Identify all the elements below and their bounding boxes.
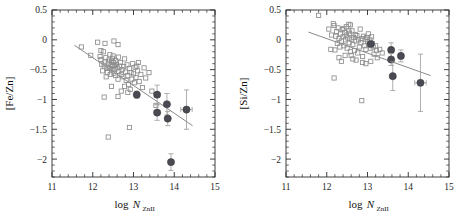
y-tick-label: 0 [42, 35, 47, 45]
data-point-filled-circle [154, 91, 161, 98]
y-tick-label: 0.5 [35, 5, 47, 15]
data-point-open-square [116, 94, 120, 98]
data-point-filled-circle [397, 52, 404, 59]
y-tick-label: −0.5 [30, 65, 47, 75]
data-point-open-square [343, 53, 347, 57]
x-tick-label: 15 [444, 182, 454, 192]
data-point-open-square [100, 69, 104, 73]
data-point-open-square [332, 76, 336, 80]
data-point-open-square [116, 42, 120, 46]
data-point-filled-circle [367, 40, 374, 47]
x-tick-label: 11 [47, 182, 56, 192]
data-point-open-square [317, 13, 321, 17]
data-point-filled-circle [417, 79, 424, 86]
data-point-filled-circle [164, 115, 171, 122]
x-axis-title-log: log [114, 198, 129, 210]
plot-area-si-zn: 11121314150.50−0.5−1−1.5−2logNZnII[Si/Zn… [234, 0, 468, 221]
y-tick-label: 0 [276, 35, 281, 45]
data-point-open-square [122, 84, 126, 88]
data-point-filled-circle [183, 106, 190, 113]
data-point-open-square [104, 75, 108, 79]
data-point-open-square [102, 95, 106, 99]
data-point-open-square [361, 54, 365, 58]
y-axis-title: [Si/Zn] [237, 78, 249, 110]
data-point-open-square [369, 59, 373, 63]
y-tick-label: −2 [37, 155, 47, 165]
data-point-open-square [330, 33, 334, 37]
x-axis-title-subscript: ZnII [143, 205, 156, 213]
x-axis-title-log: log [348, 198, 363, 210]
data-point-open-square [119, 89, 123, 93]
y-tick-label: −0.5 [264, 65, 281, 75]
data-point-open-square [357, 45, 361, 49]
y-tick-label: −1.5 [30, 125, 47, 135]
x-axis-title: logNZnII [114, 198, 155, 213]
data-point-filled-circle [167, 158, 174, 165]
x-tick-label: 14 [404, 182, 414, 192]
x-tick-label: 12 [322, 182, 332, 192]
data-point-open-square [122, 57, 126, 61]
plot-area-fe-zn: 11121314150.50−0.5−1−1.5−2logNZnII[Fe/Zn… [0, 0, 234, 221]
data-point-open-square [360, 99, 364, 103]
data-point-filled-circle [163, 101, 170, 108]
data-point-open-square [140, 85, 144, 89]
x-tick-label: 13 [363, 182, 373, 192]
data-layer [308, 13, 430, 111]
y-tick-label: −1 [37, 95, 47, 105]
x-tick-label: 14 [170, 182, 180, 192]
data-point-open-square [329, 47, 333, 51]
data-point-open-square [137, 79, 141, 83]
data-point-open-square [96, 40, 100, 44]
x-tick-label: 15 [210, 182, 220, 192]
data-point-open-square [112, 39, 116, 43]
data-point-open-square [333, 48, 337, 52]
data-layer [74, 39, 192, 171]
data-point-open-square [127, 125, 131, 129]
data-point-open-square [147, 71, 151, 75]
data-point-open-square [109, 84, 113, 88]
data-point-open-square [358, 27, 362, 31]
x-axis-title-n: N [132, 198, 141, 210]
data-point-open-square [103, 41, 107, 45]
y-tick-label: −2 [271, 155, 281, 165]
data-point-open-square [327, 27, 331, 31]
data-point-filled-circle [389, 73, 396, 80]
data-point-open-square [150, 89, 154, 93]
y-tick-label: −1.5 [264, 125, 281, 135]
x-axis-title-n: N [366, 198, 375, 210]
x-tick-label: 13 [129, 182, 139, 192]
panel-fe-zn: 11121314150.50−0.5−1−1.5−2logNZnII[Fe/Zn… [0, 0, 234, 221]
x-tick-label: 11 [281, 182, 290, 192]
data-point-filled-circle [154, 109, 161, 116]
x-tick-label: 12 [88, 182, 98, 192]
data-point-open-square [144, 76, 148, 80]
y-axis-title: [Fe/Zn] [3, 77, 15, 111]
y-tick-label: −1 [271, 95, 281, 105]
x-axis-title-subscript: ZnII [377, 205, 390, 213]
panel-si-zn: 11121314150.50−0.5−1−1.5−2logNZnII[Si/Zn… [234, 0, 468, 221]
x-axis-title: logNZnII [348, 198, 389, 213]
data-point-filled-circle [133, 91, 140, 98]
data-point-open-square [142, 66, 146, 70]
figure-container: 11121314150.50−0.5−1−1.5−2logNZnII[Fe/Zn… [0, 0, 468, 221]
data-point-open-square [106, 135, 110, 139]
y-tick-label: 0.5 [269, 5, 281, 15]
data-point-filled-circle [388, 46, 395, 53]
